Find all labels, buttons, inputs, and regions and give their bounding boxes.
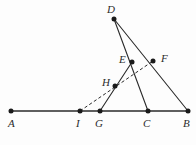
geometry-figure: AIGCBDEFH	[0, 0, 196, 145]
vertex-point-F	[151, 59, 156, 64]
point-label-H: H	[102, 77, 110, 88]
vertex-point-C	[146, 109, 151, 114]
point-label-D: D	[107, 4, 115, 15]
vertex-point-D	[112, 17, 117, 22]
vertices-layer	[9, 17, 191, 114]
vertex-point-G	[98, 109, 103, 114]
vertex-point-A	[9, 109, 14, 114]
segments-layer	[11, 19, 188, 111]
point-label-G: G	[95, 118, 103, 129]
vertex-point-B	[186, 109, 191, 114]
point-label-E: E	[119, 54, 126, 65]
vertex-point-H	[113, 84, 118, 89]
point-label-I: I	[76, 118, 80, 129]
segment-D-to-C	[114, 19, 148, 111]
point-label-C: C	[143, 118, 150, 129]
vertex-point-I	[78, 109, 83, 114]
point-label-B: B	[183, 118, 190, 129]
point-label-F: F	[161, 53, 168, 64]
vertex-point-E	[130, 60, 135, 65]
segment-D-to-B	[114, 19, 188, 111]
point-label-A: A	[8, 118, 15, 129]
